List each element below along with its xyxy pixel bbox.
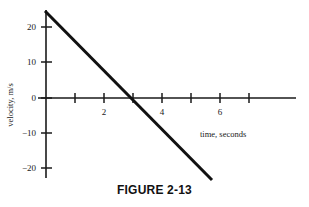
figure-container: 20 10 0 −10 −20 2 4 6 velocity, m/s time… xyxy=(0,0,309,207)
y-tick-label-m20: −20 xyxy=(22,163,37,173)
y-axis-title: velocity, m/s xyxy=(5,83,15,126)
x-axis-title: time, seconds xyxy=(200,129,246,139)
y-tick-label-0: 0 xyxy=(32,93,37,103)
velocity-data-line xyxy=(45,11,212,180)
velocity-time-plot: 20 10 0 −10 −20 2 4 6 velocity, m/s time… xyxy=(0,0,309,207)
y-tick-label-10: 10 xyxy=(27,57,37,67)
x-tick-label-2: 2 xyxy=(102,107,107,117)
figure-caption: FIGURE 2-13 xyxy=(0,183,309,197)
x-tick-label-6: 6 xyxy=(218,107,223,117)
x-tick-label-4: 4 xyxy=(160,107,165,117)
y-tick-label-20: 20 xyxy=(27,22,37,32)
y-tick-label-m10: −10 xyxy=(22,128,37,138)
